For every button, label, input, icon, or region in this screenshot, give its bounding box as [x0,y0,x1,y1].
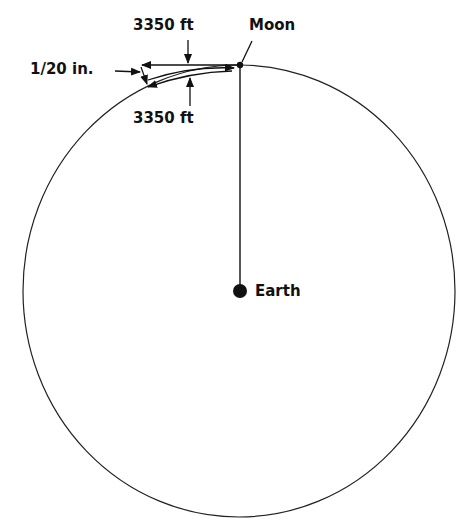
arc-arrow-outbound [148,68,234,80]
moon-label: Moon [249,18,295,33]
earth-dot [233,284,247,298]
moon-orbit-diagram: 3350 ft Moon 1/20 in. 3350 ft Earth [0,0,469,529]
arc-distance-label: 3350 ft [133,111,194,126]
diagram-canvas [0,0,469,529]
earth-label: Earth [255,284,301,299]
fall-distance-arrow [141,67,147,84]
fall-distance-pointer [115,71,140,72]
tangent-distance-label: 3350 ft [133,18,194,33]
fall-distance-label: 1/20 in. [30,62,94,77]
moon-label-pointer [242,41,252,62]
